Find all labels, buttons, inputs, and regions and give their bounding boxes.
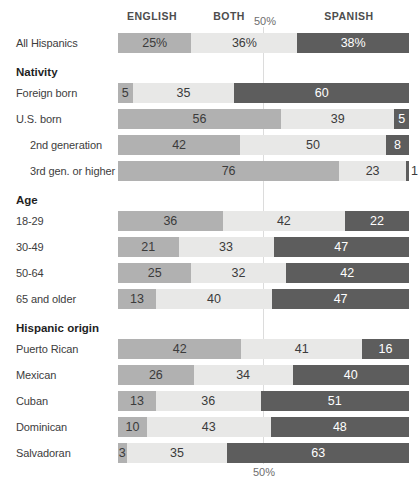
value-label: 22 bbox=[370, 214, 384, 228]
stacked-bar: 133651 bbox=[118, 391, 409, 411]
value-label: 25% bbox=[142, 36, 167, 50]
bar-row: 2nd generation42508 bbox=[0, 135, 420, 155]
value-label: 34 bbox=[236, 368, 250, 382]
value-label: 48 bbox=[333, 420, 347, 434]
bar-row: Puerto Rican424116 bbox=[0, 339, 420, 359]
segment-both: 42 bbox=[223, 211, 345, 231]
value-label: 16 bbox=[379, 342, 393, 356]
segment-spanish: 51 bbox=[261, 391, 409, 411]
bar-row: All Hispanics25%36%38% bbox=[0, 33, 420, 53]
segment-english: 42 bbox=[118, 339, 241, 359]
segment-both: 23 bbox=[339, 161, 406, 181]
segment-both: 35 bbox=[133, 83, 235, 103]
value-label: 60 bbox=[315, 86, 329, 100]
segment-both: 40 bbox=[156, 289, 272, 309]
value-label: 21 bbox=[141, 240, 155, 254]
segment-both: 36 bbox=[156, 391, 261, 411]
column-header-english: ENGLISH bbox=[127, 10, 177, 22]
section-label: Nativity bbox=[0, 63, 420, 81]
row-label: Dominican bbox=[0, 417, 118, 437]
segment-english: 56 bbox=[118, 109, 281, 129]
segment-spanish: 22 bbox=[345, 211, 409, 231]
bar-row: 50-64253242 bbox=[0, 263, 420, 283]
segment-spanish: 47 bbox=[274, 237, 409, 257]
column-header-both: BOTH bbox=[213, 10, 245, 22]
segment-both: 43 bbox=[147, 417, 271, 437]
value-label: 36 bbox=[201, 394, 215, 408]
value-label: 42 bbox=[277, 214, 291, 228]
row-label: 65 and older bbox=[0, 289, 118, 309]
row-label: U.S. born bbox=[0, 109, 118, 129]
column-header-spanish: SPANISH bbox=[324, 10, 373, 22]
value-label: 13 bbox=[130, 394, 144, 408]
value-label: 42 bbox=[340, 266, 354, 280]
segment-both: 36% bbox=[191, 33, 297, 53]
segment-english: 13 bbox=[118, 289, 156, 309]
value-label: 32 bbox=[232, 266, 246, 280]
row-label: Cuban bbox=[0, 391, 118, 411]
bar-row: 3rd gen. or higher76231 bbox=[0, 161, 420, 181]
value-label: 50 bbox=[306, 138, 320, 152]
value-label: 8 bbox=[394, 138, 401, 152]
value-label: 13 bbox=[130, 292, 144, 306]
stacked-bar: 253242 bbox=[118, 263, 409, 283]
row-label: Foreign born bbox=[0, 83, 118, 103]
section-label: Age bbox=[0, 191, 420, 209]
row-label: 30-49 bbox=[0, 237, 118, 257]
segment-english: 13 bbox=[118, 391, 156, 411]
value-label: 23 bbox=[366, 164, 380, 178]
chart: ENGLISH BOTH 50% SPANISH All Hispanics25… bbox=[0, 0, 420, 495]
segment-english: 42 bbox=[118, 135, 240, 155]
value-label: 47 bbox=[334, 240, 348, 254]
stacked-bar: 53560 bbox=[118, 83, 409, 103]
segment-both: 32 bbox=[191, 263, 285, 283]
segment-both: 50 bbox=[240, 135, 386, 155]
value-label: 56 bbox=[193, 112, 207, 126]
segment-english: 25% bbox=[118, 33, 191, 53]
stacked-bar: 33563 bbox=[118, 443, 409, 463]
stacked-bar: 364222 bbox=[118, 211, 409, 231]
stacked-bar: 7623 bbox=[118, 161, 409, 181]
value-label: 42 bbox=[172, 138, 186, 152]
segment-spanish: 47 bbox=[272, 289, 409, 309]
bar-row: Foreign born53560 bbox=[0, 83, 420, 103]
section-label: Hispanic origin bbox=[0, 319, 420, 337]
gridline-label-top: 50% bbox=[254, 15, 276, 27]
segment-english: 21 bbox=[118, 237, 179, 257]
value-label: 36% bbox=[232, 36, 257, 50]
row-label: 3rd gen. or higher bbox=[0, 161, 118, 181]
segment-spanish: 8 bbox=[386, 135, 409, 155]
segment-spanish bbox=[406, 161, 409, 181]
value-label: 76 bbox=[222, 164, 236, 178]
value-label: 41 bbox=[295, 342, 309, 356]
bar-row: 65 and older134047 bbox=[0, 289, 420, 309]
row-label: Puerto Rican bbox=[0, 339, 118, 359]
segment-both: 39 bbox=[281, 109, 394, 129]
row-label: 50-64 bbox=[0, 263, 118, 283]
bar-row: Salvadoran33563 bbox=[0, 443, 420, 463]
stacked-bar: 424116 bbox=[118, 339, 409, 359]
bar-row: 18-29364222 bbox=[0, 211, 420, 231]
segment-english: 10 bbox=[118, 417, 147, 437]
value-label: 40 bbox=[207, 292, 221, 306]
segment-spanish: 5 bbox=[394, 109, 409, 129]
value-label: 35 bbox=[177, 86, 191, 100]
segment-spanish: 16 bbox=[362, 339, 409, 359]
segment-both: 35 bbox=[127, 443, 228, 463]
segment-spanish: 42 bbox=[286, 263, 409, 283]
segment-english: 25 bbox=[118, 263, 191, 283]
value-label: 10 bbox=[125, 420, 139, 434]
value-label: 39 bbox=[331, 112, 345, 126]
row-label: 18-29 bbox=[0, 211, 118, 231]
stacked-bar: 56395 bbox=[118, 109, 409, 129]
segment-spanish: 40 bbox=[293, 365, 409, 385]
segment-english: 36 bbox=[118, 211, 223, 231]
value-label: 47 bbox=[334, 292, 348, 306]
row-label: 2nd generation bbox=[0, 135, 118, 155]
value-label: 63 bbox=[311, 446, 325, 460]
row-label: All Hispanics bbox=[0, 33, 118, 53]
value-label-outside: 1 bbox=[411, 161, 418, 181]
bar-row: Dominican104348 bbox=[0, 417, 420, 437]
bar-row: U.S. born56395 bbox=[0, 109, 420, 129]
value-label: 3 bbox=[119, 446, 126, 460]
